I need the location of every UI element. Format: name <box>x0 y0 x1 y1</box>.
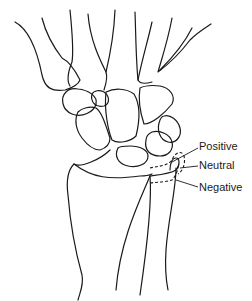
ulna <box>140 158 179 295</box>
ulnar-variance-outlines <box>150 153 185 183</box>
negative-leader <box>176 180 198 187</box>
negative-label: Negative <box>199 182 242 193</box>
neutral-leader <box>180 166 198 168</box>
neutral-label: Neutral <box>199 160 234 171</box>
positive-leader <box>172 148 198 162</box>
positive-label: Positive <box>199 141 238 152</box>
carpals <box>63 86 181 167</box>
radius <box>67 150 152 300</box>
metacarpals <box>15 10 211 90</box>
